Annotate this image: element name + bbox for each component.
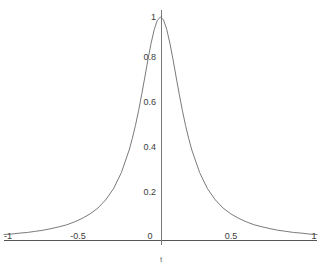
chart-canvas: 1 0.8 0.6 0.4 0.2 -1 -0.5 0 0.5 1 t bbox=[0, 0, 322, 268]
x-tick-label-minus-1: -1 bbox=[0, 231, 16, 241]
x-axis-title: t bbox=[147, 255, 175, 264]
y-tick-label-1: 1 bbox=[126, 12, 156, 22]
x-tick-label-minus-0-5: -0.5 bbox=[64, 231, 92, 241]
y-tick-label-0-6: 0.6 bbox=[126, 97, 156, 107]
y-tick-label-0-4: 0.4 bbox=[126, 142, 156, 152]
data-series-line bbox=[4, 17, 317, 234]
x-tick-label-1: 1 bbox=[307, 231, 321, 241]
plot-area bbox=[0, 0, 322, 268]
x-tick-label-0: 0 bbox=[143, 231, 157, 241]
y-tick-label-0-8: 0.8 bbox=[126, 52, 156, 62]
x-tick-label-0-5: 0.5 bbox=[218, 231, 244, 241]
y-tick-label-0-2: 0.2 bbox=[126, 187, 156, 197]
